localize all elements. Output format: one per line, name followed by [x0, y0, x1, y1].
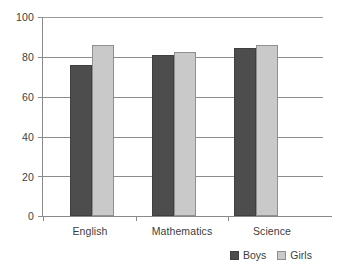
legend-swatch-boys-icon [230, 251, 239, 260]
bar-girls-mathematics [174, 52, 196, 216]
bar-boys-english [70, 65, 92, 216]
x-axis-label-science: Science [232, 225, 312, 237]
bar-boys-mathematics [152, 55, 174, 216]
y-axis-tick-label-60: 60 [4, 92, 34, 102]
bar-girls-science [256, 45, 278, 216]
legend-label-boys: Boys [243, 250, 266, 261]
legend-item-boys: Boys [230, 250, 266, 261]
y-axis-tick-label-0: 0 [4, 211, 34, 221]
bar-chart: 100 80 60 40 20 0 English Mathematics S [0, 0, 342, 275]
legend-label-girls: Girls [290, 250, 312, 261]
y-axis-labels: 100 80 60 40 20 0 [0, 0, 34, 275]
gridline-100 [42, 17, 323, 18]
x-axis-label-english: English [50, 225, 130, 237]
legend: Boys Girls [230, 250, 312, 261]
legend-swatch-girls-icon [277, 251, 286, 260]
y-axis-tick-label-20: 20 [4, 172, 34, 182]
x-axis-tick-mark-1 [136, 216, 137, 221]
bar-girls-english [92, 45, 114, 216]
x-axis-label-mathematics: Mathematics [141, 225, 223, 237]
bar-boys-science [234, 48, 256, 216]
y-axis-tick-label-40: 40 [4, 132, 34, 142]
y-axis-tick-label-100: 100 [4, 12, 34, 22]
legend-item-girls: Girls [277, 250, 312, 261]
x-axis-tick-mark-0 [43, 216, 44, 221]
x-axis-line [42, 216, 332, 217]
y-axis-tick-label-80: 80 [4, 52, 34, 62]
x-axis-tick-mark-2 [228, 216, 229, 221]
plot-area [42, 17, 323, 216]
